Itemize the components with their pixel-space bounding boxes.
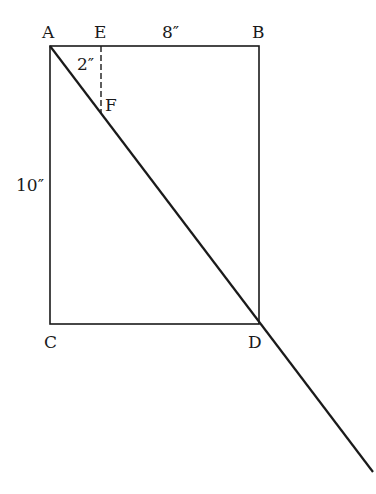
label-measure-ef: 2″ [77, 54, 94, 74]
diagonal-line-ad-extended [50, 46, 373, 472]
label-point-b: B [252, 22, 265, 42]
label-point-a: A [41, 22, 55, 42]
label-point-e: E [94, 22, 106, 42]
label-point-f: F [105, 95, 117, 115]
label-measure-left: 10″ [16, 175, 44, 195]
label-measure-top: 8″ [162, 22, 179, 42]
rectangle-diagram: A E 8″ B 2″ F 10″ C D [0, 0, 376, 494]
label-point-d: D [248, 332, 262, 352]
label-point-c: C [44, 332, 57, 352]
